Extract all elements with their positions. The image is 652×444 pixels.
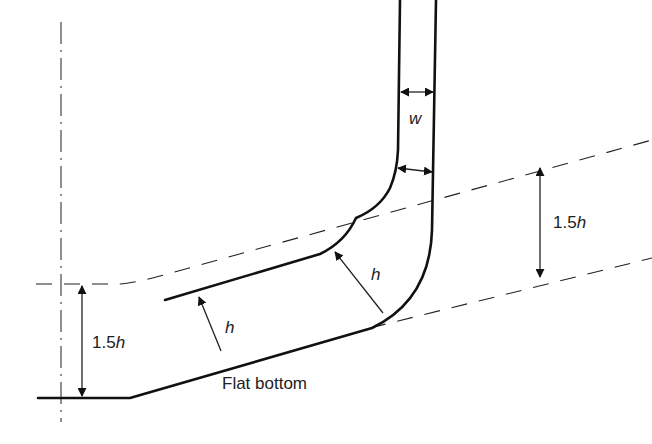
width-dimension-arrow-bottom: [398, 168, 432, 172]
dimension-label-left: 1.5h: [92, 333, 125, 352]
thickness-arrow-lower: [199, 297, 221, 351]
thickness-label-lower: h: [225, 318, 234, 337]
dimension-label-right: 1.5h: [553, 213, 586, 232]
inner-wall: [165, 0, 400, 300]
dimension-label-right-variable: h: [577, 213, 586, 232]
width-label: w: [409, 109, 423, 128]
dimension-label-left-number: 1.5: [92, 333, 116, 352]
thickness-label-upper: h: [371, 265, 380, 284]
flat-bottom-diagram: w h h 1.5h 1.5h Flat bottom: [0, 0, 652, 444]
dimension-label-right-number: 1.5: [553, 213, 577, 232]
dimension-label-left-variable: h: [116, 333, 125, 352]
flat-bottom-label: Flat bottom: [222, 374, 307, 393]
